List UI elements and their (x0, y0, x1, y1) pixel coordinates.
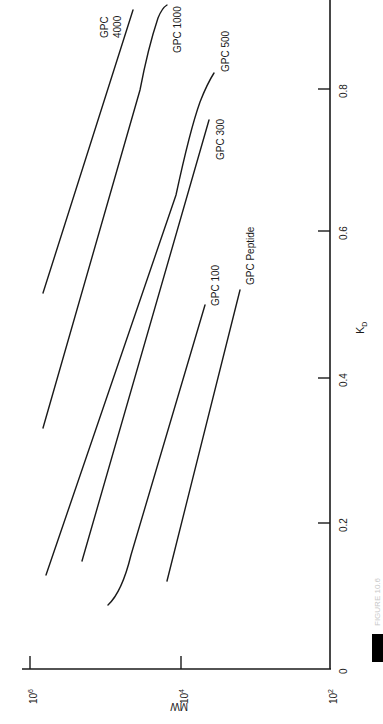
kd-tick-label-08: 0.8 (338, 84, 349, 98)
label-gpc-500: GPC 500 (220, 31, 231, 72)
label-gpc-peptide: GPC Peptide (245, 227, 256, 285)
tick-exp: 2 (327, 689, 334, 693)
tick-base: 10 (328, 693, 339, 704)
mw-tick-label-1e6: 106 (25, 689, 39, 704)
kd-tick-label-04: 0.4 (338, 373, 349, 387)
curve-gpc-peptide (167, 290, 240, 581)
tick-exp: 4 (178, 689, 185, 693)
mw-axis-title: MW (170, 701, 188, 712)
kd-axis-title: KD (355, 322, 370, 334)
tick-exp: 6 (27, 689, 34, 693)
figure-caption: FIGURE 10.6 (372, 578, 383, 626)
curve-gpc-500 (46, 73, 214, 575)
curve-gpc-300 (82, 120, 209, 561)
chart-canvas (0, 0, 383, 724)
kd-tick-label-06: 0.6 (338, 226, 349, 240)
label-gpc-4000: GPC 4000 (98, 16, 124, 38)
label-gpc-100: GPC 100 (210, 265, 221, 306)
curve-gpc-1000 (43, 5, 167, 428)
kd-tick-label-0: 0 (338, 668, 349, 674)
label-gpc-300: GPC 300 (215, 119, 226, 160)
label-gpc-4000-line1: GPC (98, 16, 111, 38)
kd-sub: D (361, 322, 368, 327)
kd-main: K (354, 327, 366, 334)
curve-gpc-4000 (43, 10, 133, 293)
kd-tick-label-02: 0.2 (338, 518, 349, 532)
label-gpc-1000: GPC 1000 (172, 6, 183, 53)
mw-tick-label-1e2: 102 (325, 689, 339, 704)
label-gpc-4000-line2: 4000 (111, 16, 124, 38)
caption-marker (372, 634, 383, 662)
tick-base: 10 (28, 693, 39, 704)
